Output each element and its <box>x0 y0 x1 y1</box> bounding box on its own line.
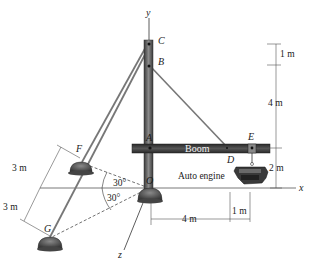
diagram: y x z 30° 30° 3 m 3 m C B Bo <box>0 0 319 275</box>
top-gap-label: 1 m <box>280 49 295 59</box>
point-f-label: F <box>75 143 83 154</box>
cable-bd <box>151 67 227 147</box>
cables-cf-cg <box>50 45 150 237</box>
support-o <box>137 188 163 204</box>
horiz-1m-label: 1 m <box>232 206 247 216</box>
angle-arcs <box>102 172 111 210</box>
auto-engine <box>234 153 268 184</box>
engine-label: Auto engine <box>178 171 225 181</box>
upper-height-label: 4 m <box>268 98 283 108</box>
point-b-pin <box>148 65 151 68</box>
point-c-pin <box>148 43 151 46</box>
dashed-guides <box>50 163 149 238</box>
point-a-pin <box>148 146 151 149</box>
z-axis-label: z <box>117 249 122 260</box>
support-f <box>68 162 94 176</box>
point-d-label: D <box>226 154 235 165</box>
point-e-label: E <box>247 131 254 142</box>
x-axis-label: x <box>298 182 304 193</box>
horiz-4m-label: 4 m <box>182 214 197 224</box>
point-g-label: G <box>44 223 51 234</box>
y-axis: y <box>145 7 151 40</box>
point-c-label: C <box>158 35 165 46</box>
point-a-label: A <box>145 132 153 143</box>
support-g <box>37 237 63 252</box>
mast <box>144 40 153 190</box>
point-o-label: O <box>146 175 153 186</box>
point-e-pin <box>251 147 254 150</box>
angle-lower-label: 30° <box>107 193 121 203</box>
f-distance-label: 3 m <box>12 163 27 173</box>
boom-label: Boom <box>185 143 210 154</box>
angle-upper-label: 30° <box>113 178 127 188</box>
g-distance-label: 3 m <box>3 202 18 212</box>
point-d-pin <box>226 147 228 149</box>
x-axis: x <box>40 182 304 193</box>
y-axis-label: y <box>145 7 151 18</box>
point-b-label: B <box>158 56 164 67</box>
boom-height-label: 2 m <box>269 163 284 173</box>
